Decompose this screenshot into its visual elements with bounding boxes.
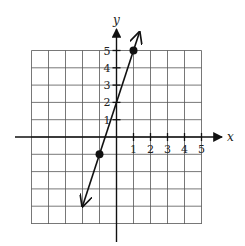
x-tick-label: 2 [147,143,154,156]
y-tick-label: 2 [104,96,111,109]
x-tick-label: 4 [181,143,188,156]
x-tick-label: 3 [164,143,171,156]
marked-point [130,47,138,55]
axes [15,29,222,242]
marked-point [96,150,104,158]
x-tick-label: 5 [198,143,205,156]
plotted-line [83,32,140,206]
coordinate-plane-chart: 1234512345 x y [0,0,245,246]
y-axis-label: y [112,13,120,27]
y-tick-label: 4 [104,62,111,75]
y-tick-label: 3 [104,79,111,92]
y-tick-label: 5 [104,45,111,58]
x-tick-label: 1 [130,143,137,156]
line-y-equals-3x-plus-2 [83,32,140,206]
x-axis-label: x [227,130,234,144]
tick-labels: 1234512345 [104,45,206,157]
